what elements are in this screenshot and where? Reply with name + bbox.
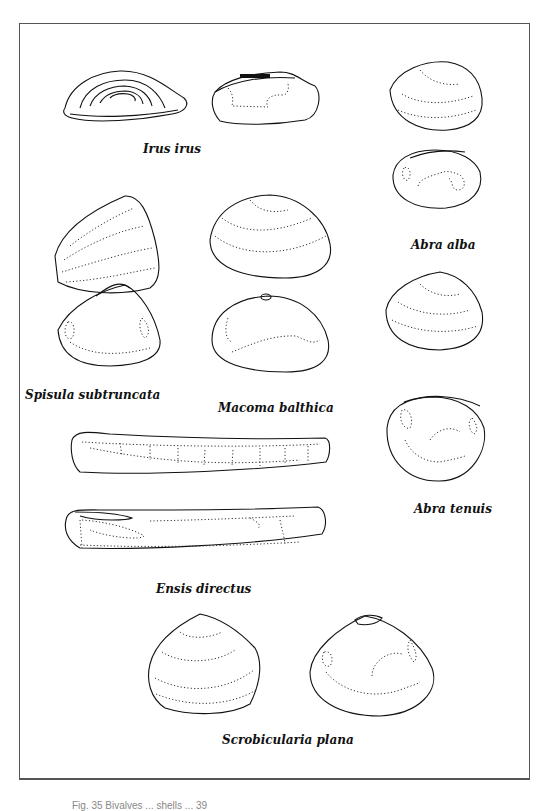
species-label-macoma-balthica: Macoma balthica [218,401,334,415]
species-label-abra-alba: Abra alba [411,238,475,252]
species-label-ensis-directus: Ensis directus [156,582,251,596]
macoma-internal-drawing [212,294,329,372]
spisula-internal-drawing [58,284,160,366]
abra-tenuis-internal-drawing [387,396,485,481]
irus-irus-internal-drawing [212,72,319,124]
spisula-external-drawing [55,196,159,293]
abra-tenuis-external-drawing [386,272,483,350]
abra-alba-external-drawing [390,62,482,130]
ensis-internal-drawing [65,507,325,548]
ensis-external-drawing [71,432,329,473]
species-label-spisula-subtruncata: Spisula subtruncata [25,388,160,402]
species-label-scrobicularia-plana: Scrobicularia plana [222,733,354,747]
scrobicularia-internal-drawing [310,615,434,716]
macoma-external-drawing [210,195,331,278]
irus-irus-external-drawing [64,71,187,121]
figure-caption: Fig. 35 Bivalves ... shells ... 39 [72,800,207,811]
abra-alba-internal-drawing [393,150,481,208]
scrobicularia-external-drawing [149,614,260,714]
species-label-irus-irus: Irus irus [143,142,201,156]
species-label-abra-tenuis: Abra tenuis [414,502,492,516]
